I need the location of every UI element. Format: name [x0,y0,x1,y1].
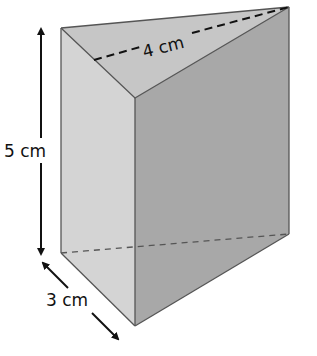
base-arrow-lower [92,313,118,339]
height-label: 5 cm [4,141,46,161]
base-label: 3 cm [46,290,88,310]
base-arrow-upper [43,263,68,288]
prism-diagram: 4 cm 5 cm 3 cm [0,0,317,356]
